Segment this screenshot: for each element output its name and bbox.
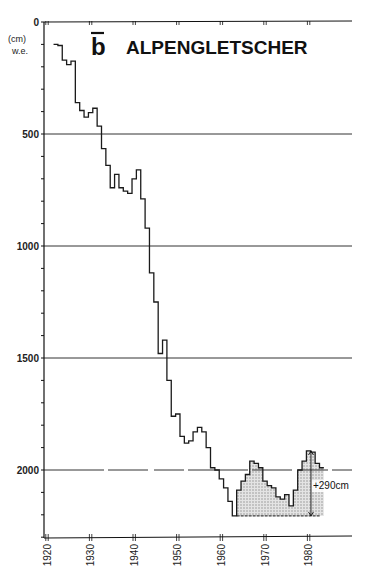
x-axis-line (44, 536, 352, 538)
y-tick-label: 0 (33, 17, 39, 28)
x-tick-label: 1940 (129, 544, 140, 567)
data-series-line (54, 44, 324, 516)
gridlines (44, 134, 352, 470)
x-tick-label: 1960 (216, 544, 227, 567)
title-symbol-b: b (91, 33, 106, 60)
x-tick-label: 1920 (42, 544, 53, 567)
y-tick-label: 2000 (17, 465, 40, 476)
chart-title: ALPENGLETSCHER (126, 37, 308, 58)
top-axis-line (44, 21, 352, 22)
y-tick-label: 1000 (17, 241, 40, 252)
y-tick-label: 1500 (17, 353, 40, 364)
y-tick-label: 500 (22, 129, 39, 140)
y-axis-unit-we: w.e. (11, 46, 28, 56)
x-tick-label: 1950 (172, 544, 183, 567)
chart-canvas: 0500100015002000192019301940195019601970… (0, 0, 368, 579)
x-tick-label: 1930 (85, 544, 96, 567)
x-tick-label: 1980 (303, 544, 314, 567)
x-tick-label: 1970 (260, 544, 271, 567)
y-axis-unit-cm: (cm) (8, 34, 26, 44)
cumulative-balance-step-line (54, 44, 324, 516)
annotation-label: +290cm (313, 480, 349, 491)
